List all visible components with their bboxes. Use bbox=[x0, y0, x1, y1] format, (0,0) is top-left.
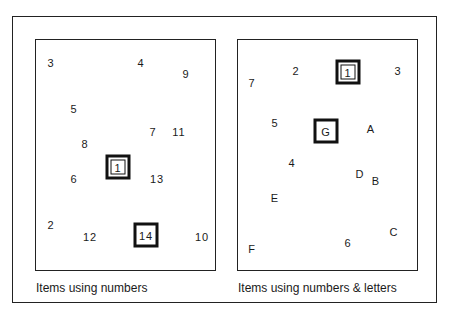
item-left: 3 bbox=[47, 58, 54, 69]
boxed-item-left: 14 bbox=[134, 223, 159, 248]
item-right: 5 bbox=[271, 118, 278, 129]
boxed-item-label: 1 bbox=[114, 161, 121, 173]
item-right: C bbox=[390, 227, 399, 238]
caption-numbers-letters: Items using numbers & letters bbox=[238, 281, 397, 295]
caption-numbers: Items using numbers bbox=[36, 281, 147, 295]
item-left: 4 bbox=[137, 58, 144, 69]
item-right: 4 bbox=[288, 158, 295, 169]
double-boxed-item-right: 1 bbox=[336, 60, 361, 85]
boxed-item-label: 1 bbox=[344, 66, 351, 78]
item-left: 10 bbox=[195, 232, 209, 243]
item-left: 9 bbox=[182, 69, 189, 80]
item-left: 13 bbox=[150, 174, 164, 185]
item-left: 12 bbox=[83, 232, 97, 243]
item-left: 6 bbox=[70, 174, 77, 185]
item-left: 5 bbox=[70, 104, 77, 115]
double-boxed-item-left: 1 bbox=[106, 155, 131, 180]
item-left: 7 bbox=[149, 127, 156, 138]
boxed-item-right: G bbox=[314, 119, 339, 144]
item-right: D bbox=[356, 169, 365, 180]
item-right: B bbox=[372, 176, 380, 187]
item-right: E bbox=[271, 193, 279, 204]
boxed-item-label: G bbox=[321, 125, 331, 137]
item-left: 2 bbox=[47, 220, 54, 231]
item-left: 8 bbox=[81, 139, 88, 150]
item-right: F bbox=[248, 244, 256, 255]
item-left: 11 bbox=[172, 127, 185, 138]
item-right: 7 bbox=[248, 78, 255, 89]
inner-box: 1 bbox=[111, 160, 126, 175]
inner-box: 1 bbox=[341, 65, 356, 80]
item-right: 6 bbox=[344, 238, 351, 249]
boxed-item-label: 14 bbox=[139, 229, 153, 241]
item-right: 2 bbox=[292, 66, 299, 77]
item-right: A bbox=[367, 124, 375, 135]
item-right: 3 bbox=[394, 66, 401, 77]
